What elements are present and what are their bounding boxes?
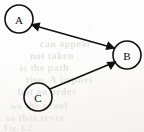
node-layer: A B C bbox=[5, 5, 141, 111]
node-c[interactable]: C bbox=[24, 83, 52, 111]
edge-layer bbox=[31, 23, 117, 89]
node-b-label: B bbox=[123, 50, 130, 62]
edge-c-b bbox=[50, 61, 117, 89]
scanned-figure-page: can appearnot takenis the pathtion. A im… bbox=[0, 0, 144, 132]
node-a-label: A bbox=[15, 14, 23, 26]
directed-graph-diagram: A B C bbox=[0, 0, 144, 132]
edge-a-b-line bbox=[32, 25, 114, 48]
edge-c-b-line bbox=[50, 62, 115, 89]
node-b[interactable]: B bbox=[113, 41, 141, 69]
edge-a-b bbox=[31, 23, 116, 50]
node-c-label: C bbox=[34, 92, 41, 104]
node-a[interactable]: A bbox=[5, 5, 33, 33]
